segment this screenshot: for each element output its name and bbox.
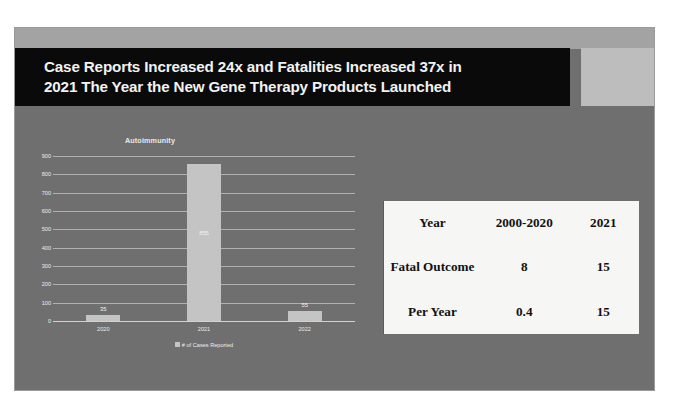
table-cell-row0-label: Year [384,201,481,245]
y-axis-tick-label: 600 [14,208,51,214]
bar-value-label-2020: 35 [100,306,106,312]
page-title: Case Reports Increased 24x and Fatalitie… [44,57,554,96]
slide-frame: Case Reports Increased 24x and Fatalitie… [14,27,655,391]
title-line-2: 2021 The Year the New Gene Therapy Produ… [44,78,451,95]
y-axis-tick-label: 200 [14,281,51,287]
table-cell-row2-col2: 0.4 [481,290,568,334]
table-cell-row2-col3: 15 [568,290,639,334]
table-cell-row1-label: Fatal Outcome [384,245,481,289]
chart-legend: # of Cases Reported [53,341,355,348]
table-row: Fatal Outcome 8 15 [384,245,639,289]
bar-2020 [86,315,120,321]
y-axis-tick-label: 400 [14,245,51,251]
table-cell-row0-col3: 2021 [568,201,639,245]
legend-swatch-cases [175,342,180,347]
y-axis-tick-label: 900 [14,153,51,159]
y-axis-tick-label: 500 [14,226,51,232]
table-cell-row2-label: Per Year [384,290,481,334]
y-axis-tick-label: 700 [14,190,51,196]
table-cell-row1-col2: 8 [481,245,568,289]
table-row: Per Year 0.4 15 [384,290,639,334]
fatal-outcome-table: Year 2000-2020 2021 Fatal Outcome 8 15 P… [383,201,639,334]
table-cell-row1-col3: 15 [568,245,639,289]
gridline [53,156,355,157]
bar-2022 [288,311,322,321]
x-axis-tick-label-2020: 2020 [97,326,109,332]
table-row: Year 2000-2020 2021 [384,201,639,245]
y-axis-tick-label: 800 [14,171,51,177]
slide-canvas: Case Reports Increased 24x and Fatalitie… [0,0,675,402]
chart-plot-area: 9008007006005004003002001000352020855202… [53,156,355,321]
y-axis-tick-label: 0 [14,318,51,324]
x-axis-tick-label-2021: 2021 [198,326,210,332]
y-axis-tick-label: 300 [14,263,51,269]
legend-label-cases: # of Cases Reported [182,342,233,348]
top-accent-band [15,28,654,49]
autoimmunity-bar-chart: Autoimmunity 900800700600500400300200100… [25,136,370,376]
bar-2021 [187,164,221,321]
chart-title: Autoimmunity [25,136,275,145]
top-right-placeholder-box [581,48,654,106]
bar-value-label-2022: 55 [301,302,307,308]
table-cell-row0-col2: 2000-2020 [481,201,568,245]
x-axis-line [53,321,355,322]
x-axis-tick-label-2022: 2022 [298,326,310,332]
title-banner: Case Reports Increased 24x and Fatalitie… [15,48,570,106]
y-axis-tick-label: 100 [14,300,51,306]
title-line-1: Case Reports Increased 24x and Fatalitie… [44,58,462,75]
bar-value-label-2021: 855 [199,230,209,236]
summary-table: Year 2000-2020 2021 Fatal Outcome 8 15 P… [384,201,639,334]
